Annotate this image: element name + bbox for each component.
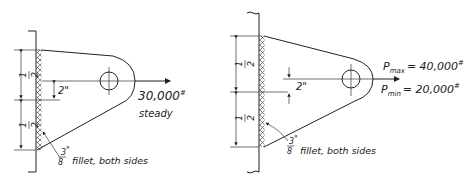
svg-text:1: 1 (18, 72, 28, 78)
right-weld-size: 3 8 " (287, 135, 298, 156)
svg-text:2: 2 (246, 61, 256, 67)
right-pmin-label: Pmin= 20,000# (381, 82, 460, 98)
left-load-label: 30,000# (138, 89, 186, 103)
weld-diagram: 1 2 1 2 2" 30,000# steady 3 8 " fillet, … (0, 0, 475, 182)
svg-text:8: 8 (287, 147, 292, 156)
right-weld-note: fillet, both sides (300, 145, 376, 156)
right-dim-upper: 1 2 (234, 60, 256, 68)
svg-text:1: 1 (234, 61, 244, 67)
left-weld-note: fillet, both sides (72, 155, 148, 166)
svg-text:2: 2 (30, 122, 40, 128)
svg-text:": " (66, 146, 70, 155)
right-dim-lower: 1 2 (234, 114, 256, 122)
right-figure: 1 2 1 2 2" Pmax= 40,000# Pmin= 20,000# 3… (230, 12, 464, 173)
left-weld-size: 3 8 " (58, 146, 70, 167)
left-offset-label: 2" (58, 85, 69, 96)
right-weld-bead (260, 36, 265, 147)
right-pmax-label: Pmax= 40,000# (383, 59, 464, 75)
svg-text:2: 2 (30, 72, 40, 78)
right-offset-label: 2" (296, 81, 307, 92)
right-weld-leader (266, 123, 288, 141)
svg-text:8: 8 (58, 158, 63, 167)
left-dim-lower: 1 2 (18, 121, 40, 129)
left-dim-upper: 1 2 (18, 71, 40, 79)
left-figure: 1 2 1 2 2" 30,000# steady 3 8 " fillet, … (14, 31, 186, 172)
svg-text:1: 1 (18, 122, 28, 128)
right-bracket-plate (264, 36, 373, 147)
svg-text:": " (294, 135, 298, 144)
svg-text:1: 1 (234, 115, 244, 121)
left-support-wall (28, 31, 36, 172)
svg-text:2: 2 (246, 115, 256, 121)
left-load-note: steady (139, 108, 174, 119)
